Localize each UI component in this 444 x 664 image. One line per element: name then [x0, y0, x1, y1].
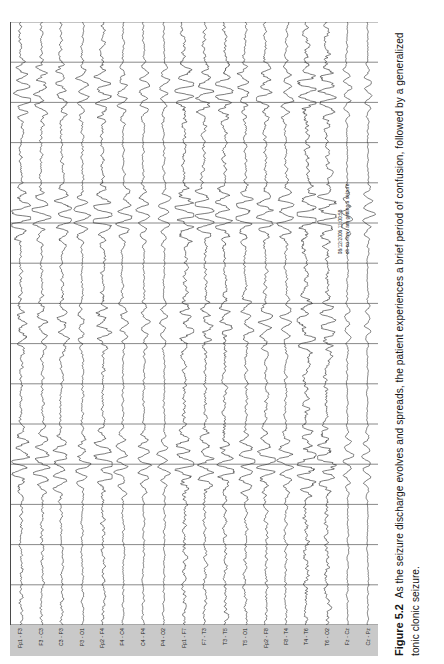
eeg-channel-trace [175, 22, 194, 625]
eeg-trace-svg [11, 22, 378, 625]
annotation-note: oh no now i am getting a seizure [345, 184, 351, 255]
channel-label: Fp2 - F8 [259, 625, 273, 656]
channel-label: T6 - O2 [320, 625, 334, 656]
channel-label: T4 - T6 [299, 625, 313, 656]
eeg-trace-area [10, 22, 378, 625]
figure-number: Figure 5.2 [393, 604, 405, 656]
channel-label: T5 - O1 [238, 625, 252, 656]
eeg-channel-trace [256, 22, 275, 625]
eeg-channel-trace [297, 22, 316, 625]
channel-label: F8 - T4 [279, 625, 293, 656]
eeg-chart: Fp1 - F3F3 - C3C3 - P3P3 - O1Fp2 - F4F4 … [10, 22, 378, 656]
channel-label: Fp1 - F3 [13, 625, 27, 656]
eeg-channel-trace [195, 22, 214, 625]
channel-label: F7 - T3 [197, 625, 211, 656]
rotated-page: Fp1 - F3F3 - C3C3 - P3P3 - O1Fp2 - F4F4 … [0, 0, 444, 664]
eeg-channel-trace [277, 22, 294, 625]
eeg-channel-trace [53, 22, 71, 625]
channel-label: C3 - P3 [54, 625, 68, 656]
eeg-channel-trace [136, 22, 152, 625]
channel-label: Cz - Pz [361, 625, 375, 656]
eeg-channel-trace [318, 22, 337, 625]
montage-label-band: Fp1 - F3F3 - C3C3 - P3P3 - O1Fp2 - F4F4 … [10, 625, 378, 656]
channel-label: Fp2 - F4 [95, 625, 109, 656]
eeg-channel-trace [12, 22, 31, 625]
channel-label: Fz - Cz [340, 625, 354, 656]
channel-label: P3 - O1 [75, 625, 89, 656]
eeg-channel-trace [114, 22, 132, 625]
eeg-channel-trace [74, 22, 91, 625]
event-annotation: 08/12/2006 11:00:58 oh no now i am getti… [338, 184, 351, 255]
channel-label: Fp1 - F7 [177, 625, 191, 656]
channel-label: C4 - P4 [136, 625, 150, 656]
eeg-channel-trace [157, 22, 172, 625]
page-content: Fp1 - F3F3 - C3C3 - P3P3 - O1Fp2 - F4F4 … [0, 0, 444, 664]
eeg-channel-trace [362, 22, 376, 625]
eeg-channel-trace [216, 22, 235, 625]
channel-label: P4 - O2 [156, 625, 170, 656]
figure-caption: Figure 5.2 As the seizure discharge evol… [392, 8, 423, 656]
eeg-channel-trace [236, 22, 255, 625]
channel-label: T3 - T5 [218, 625, 232, 656]
channel-label: F4 - C4 [115, 625, 129, 656]
eeg-channel-trace [32, 22, 51, 625]
figure-caption-text: As the seizure discharge evolves and spr… [394, 32, 421, 656]
eeg-channel-trace [93, 22, 112, 625]
channel-label: F3 - C3 [34, 625, 48, 656]
eeg-channel-trace [341, 22, 353, 625]
